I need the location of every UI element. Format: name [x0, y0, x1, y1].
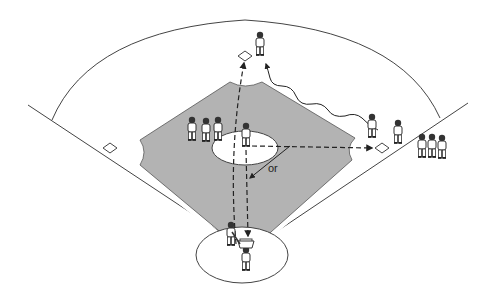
baseball-field-diagram: or: [0, 0, 488, 285]
right-waiting-player-1: [418, 134, 426, 158]
first-base: [375, 143, 389, 153]
runner: [368, 114, 376, 138]
right-waiting-player-2: [428, 134, 436, 158]
second-base: [238, 51, 252, 61]
third-base: [103, 143, 117, 153]
or-label: or: [268, 162, 278, 174]
right-waiting-player-3: [438, 135, 446, 159]
catcher-mitt: [238, 241, 254, 248]
first-base-fielder: [394, 120, 402, 144]
second-base-fielder: [256, 32, 264, 56]
